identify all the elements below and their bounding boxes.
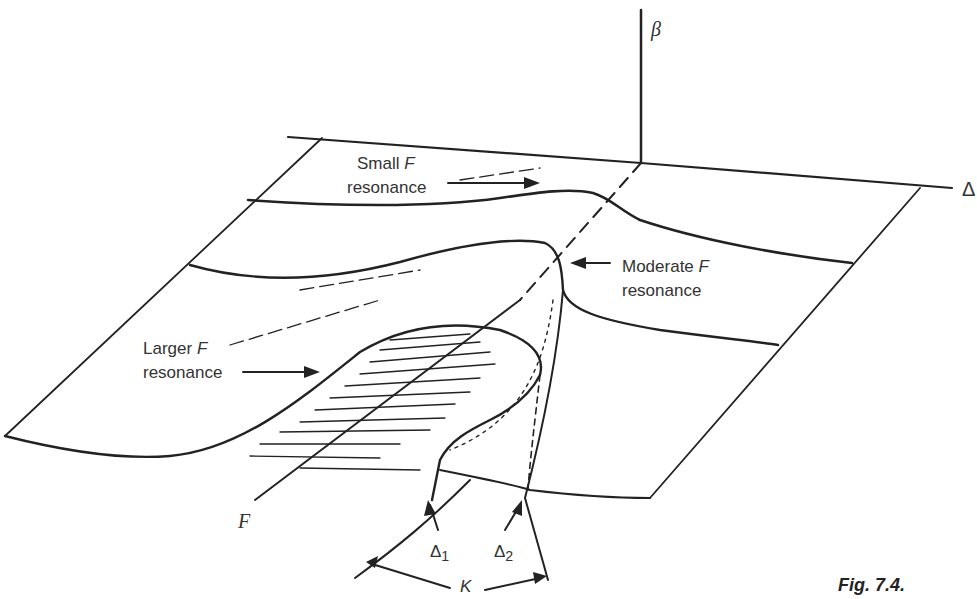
k-label: K	[460, 575, 471, 599]
small-f-curve	[248, 191, 852, 263]
small-f-label: Small F resonance	[357, 152, 426, 200]
moderate-f-label: Moderate F resonance	[622, 255, 709, 303]
left-edge-line	[5, 138, 322, 436]
delta2-label: Δ2	[494, 540, 513, 568]
fold-dotted	[450, 300, 553, 450]
delta1-label: Δ1	[430, 540, 449, 568]
fold-right-branch	[525, 290, 563, 580]
larger-f-label: Larger F resonance	[143, 337, 222, 385]
delta-axis-label: Δ	[962, 178, 975, 201]
figure-caption: Fig. 7.4.	[838, 575, 905, 596]
f-axis-label: F	[238, 510, 250, 533]
diagram-drawing	[0, 0, 977, 599]
lower-curve	[440, 470, 650, 498]
beta-axis-label: β	[651, 18, 661, 41]
resonance-surface-diagram: β Δ F Small F resonance Moderate F reson…	[0, 0, 977, 599]
arrows	[243, 183, 610, 590]
fold-dashed	[528, 375, 540, 490]
